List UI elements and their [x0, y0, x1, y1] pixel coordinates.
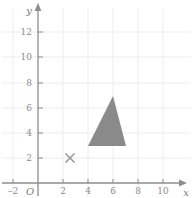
xtick-label-neg2: –2 [8, 186, 18, 196]
ytick-label-6: 6 [26, 103, 32, 113]
xtick-label-4: 4 [85, 186, 91, 196]
ytick-label-2: 2 [26, 153, 32, 163]
coordinate-plane-figure: –2 2 4 6 8 10 2 4 6 8 10 12 O y x [0, 0, 193, 198]
xtick-label-6: 6 [110, 186, 116, 196]
y-axis-label: y [25, 5, 32, 16]
ytick-label-10: 10 [21, 52, 33, 62]
y-axis-ticks [38, 32, 43, 158]
ytick-label-12: 12 [21, 27, 32, 37]
plot-canvas: –2 2 4 6 8 10 2 4 6 8 10 12 O y x [0, 0, 193, 198]
vertical-gridlines [13, 8, 163, 196]
origin-label: O [26, 186, 34, 197]
x-axis-label: x [183, 187, 189, 198]
ytick-label-8: 8 [26, 78, 32, 88]
xtick-label-10: 10 [157, 186, 169, 196]
xtick-label-2: 2 [60, 186, 66, 196]
xtick-label-8: 8 [135, 186, 141, 196]
shaded-triangle [88, 96, 126, 146]
ytick-label-4: 4 [26, 128, 32, 138]
